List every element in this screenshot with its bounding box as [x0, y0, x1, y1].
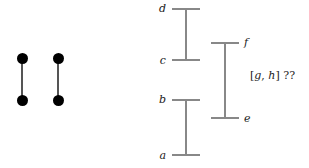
interval-ab-top-label-b: b	[148, 94, 166, 105]
interval-ef-top-label-f: f	[244, 37, 262, 48]
annotation-query-marks: ??	[283, 69, 295, 82]
segment-1-bottom-endpoint-dot	[17, 95, 28, 106]
interval-cd-stem	[185, 8, 187, 60]
interval-ef-bottom-label-e: e	[244, 113, 262, 124]
segment-2-stem	[57, 58, 59, 100]
interval-ab-bottom-cap	[172, 154, 200, 156]
interval-cd-bottom-cap	[172, 59, 200, 61]
segment-2-bottom-endpoint-dot	[53, 95, 64, 106]
segment-1-stem	[21, 58, 23, 100]
interval-ab-top-cap	[172, 99, 200, 101]
segment-2-top-endpoint-dot	[53, 53, 64, 64]
annotation-separator: ,	[261, 69, 265, 82]
interval-cd-top-label-d: d	[148, 3, 166, 14]
interval-diagram-canvas: d c f e b a [g, h] ??	[0, 0, 309, 168]
interval-cd-top-cap	[172, 8, 200, 10]
interval-ab-stem	[185, 99, 187, 155]
interval-cd-bottom-label-c: c	[148, 55, 166, 66]
interval-ab-bottom-label-a: a	[148, 150, 166, 161]
interval-ef-stem	[224, 42, 226, 118]
segment-1-top-endpoint-dot	[17, 53, 28, 64]
interval-ef-bottom-cap	[211, 117, 239, 119]
annotation-close-bracket: ]	[275, 69, 279, 82]
unknown-interval-annotation: [g, h] ??	[250, 70, 295, 81]
interval-ef-top-cap	[211, 42, 239, 44]
